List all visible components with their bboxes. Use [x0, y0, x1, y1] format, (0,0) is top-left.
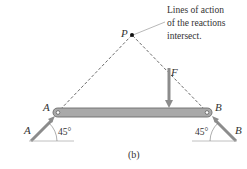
support-b-label: B: [215, 101, 222, 113]
point-p-label: P: [120, 27, 128, 39]
force-f-arrowhead: [165, 100, 173, 108]
annotation-line-3: intersect.: [167, 31, 202, 41]
angle-arc-a: [49, 123, 57, 141]
angle-b-label: 45°: [195, 127, 209, 137]
reaction-a-arrow-shaft: [31, 120, 52, 141]
figure-caption: (b): [128, 149, 140, 161]
annotation-line-2: of the reactions: [167, 18, 226, 28]
beam: [53, 108, 212, 117]
force-f-label: F: [170, 66, 178, 78]
angle-a-label: 45°: [58, 127, 72, 137]
diagram-canvas: P Lines of action of the reactions inter…: [0, 0, 247, 169]
reaction-b-label: B: [235, 124, 242, 136]
intersection-point: [130, 33, 134, 37]
reaction-a-label: A: [23, 124, 31, 136]
angle-arc-b: [210, 123, 218, 141]
pin-a: [56, 111, 60, 115]
support-a-label: A: [42, 101, 50, 113]
beam-reaction-diagram: P Lines of action of the reactions inter…: [0, 0, 247, 169]
annotation-leader: [133, 22, 165, 35]
pin-b: [205, 111, 209, 115]
reaction-b-arrow-shaft: [215, 120, 236, 141]
line-of-action-a: [57, 35, 132, 113]
annotation-line-1: Lines of action: [167, 5, 224, 15]
